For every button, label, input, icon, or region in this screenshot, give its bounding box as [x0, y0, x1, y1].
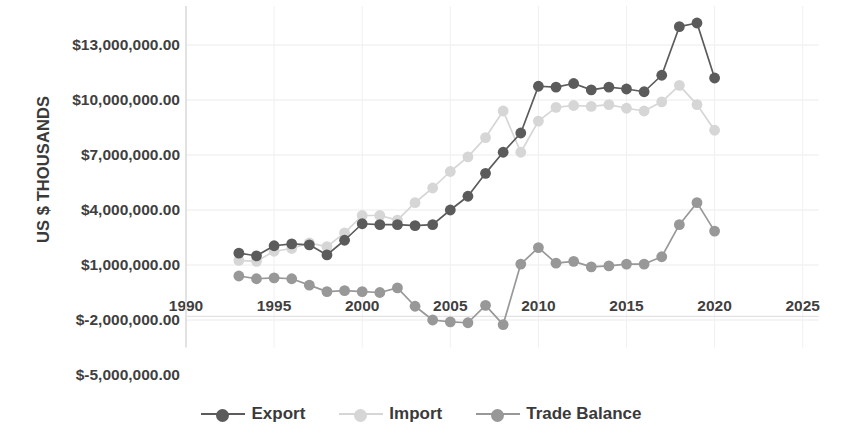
data-point: [568, 100, 579, 111]
legend-marker-icon: [201, 406, 245, 422]
series-export: [233, 18, 720, 262]
data-point: [498, 319, 509, 330]
data-point: [445, 316, 456, 327]
data-point: [533, 116, 544, 127]
data-point: [621, 84, 632, 95]
data-point: [692, 99, 703, 110]
data-point: [269, 240, 280, 251]
legend-marker-icon: [476, 406, 520, 422]
data-point: [445, 205, 456, 216]
data-point: [515, 128, 526, 139]
data-point: [515, 147, 526, 158]
legend-item[interactable]: Export: [201, 404, 305, 424]
data-point: [410, 220, 421, 231]
data-point: [533, 81, 544, 92]
data-point: [339, 285, 350, 296]
data-point: [339, 235, 350, 246]
data-point: [515, 259, 526, 270]
legend-item[interactable]: Trade Balance: [476, 404, 641, 424]
data-point: [586, 101, 597, 112]
data-point: [463, 317, 474, 328]
data-point: [427, 315, 438, 326]
data-point: [586, 261, 597, 272]
series-line: [239, 23, 715, 256]
line-chart: US $ THOUSANDS $13,000,000.00$10,000,000…: [0, 0, 843, 434]
data-point: [286, 273, 297, 284]
legend-label: Trade Balance: [526, 404, 641, 424]
data-point: [692, 197, 703, 208]
data-point: [709, 125, 720, 136]
data-point: [586, 85, 597, 96]
legend-label: Import: [389, 404, 442, 424]
data-point: [463, 191, 474, 202]
data-point: [322, 286, 333, 297]
data-point: [427, 219, 438, 230]
data-point: [709, 226, 720, 237]
data-point: [656, 70, 667, 81]
data-point: [374, 219, 385, 230]
data-point: [427, 183, 438, 194]
data-point: [445, 166, 456, 177]
data-point: [410, 301, 421, 312]
data-point: [463, 151, 474, 162]
data-point: [656, 251, 667, 262]
data-point: [357, 286, 368, 297]
data-point: [304, 280, 315, 291]
data-point: [603, 261, 614, 272]
data-point: [233, 271, 244, 282]
data-point: [603, 99, 614, 110]
chart-legend: ExportImportTrade Balance: [0, 404, 843, 424]
data-point: [551, 82, 562, 93]
data-point: [251, 273, 262, 284]
data-point: [357, 218, 368, 229]
data-point: [551, 102, 562, 113]
data-point: [639, 259, 650, 270]
data-point: [568, 256, 579, 267]
data-point: [551, 258, 562, 269]
data-point: [480, 132, 491, 143]
data-point: [410, 197, 421, 208]
data-point: [498, 147, 509, 158]
data-point: [674, 21, 685, 32]
data-point: [692, 18, 703, 29]
data-point: [603, 82, 614, 93]
data-point: [533, 242, 544, 253]
data-point: [322, 250, 333, 261]
series-trade-balance: [233, 197, 720, 330]
gridlines: [186, 6, 819, 348]
legend-item[interactable]: Import: [339, 404, 442, 424]
data-point: [568, 78, 579, 89]
data-point: [392, 219, 403, 230]
data-point: [304, 239, 315, 250]
data-point: [639, 86, 650, 97]
data-point: [286, 239, 297, 250]
data-point: [674, 219, 685, 230]
data-point: [498, 106, 509, 117]
data-point: [480, 168, 491, 179]
data-point: [656, 96, 667, 107]
data-point: [621, 259, 632, 270]
legend-marker-icon: [339, 406, 383, 422]
data-point: [392, 283, 403, 294]
data-point: [621, 103, 632, 114]
data-point: [251, 250, 262, 261]
data-point: [674, 80, 685, 91]
plot-area: [0, 0, 843, 434]
data-point: [269, 272, 280, 283]
series-import: [233, 80, 720, 267]
data-point: [374, 287, 385, 298]
data-point: [233, 248, 244, 259]
data-point: [709, 73, 720, 84]
data-point: [639, 106, 650, 117]
legend-label: Export: [251, 404, 305, 424]
data-point: [480, 300, 491, 311]
